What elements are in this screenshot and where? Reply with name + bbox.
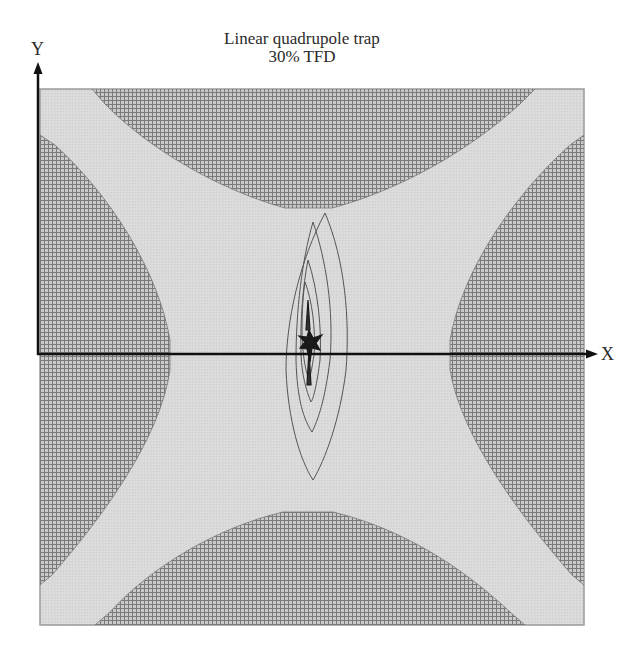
x-axis-arrow-icon bbox=[586, 350, 598, 359]
quadrupole-field-plot bbox=[0, 0, 640, 651]
y-axis-arrow-icon bbox=[34, 62, 43, 74]
